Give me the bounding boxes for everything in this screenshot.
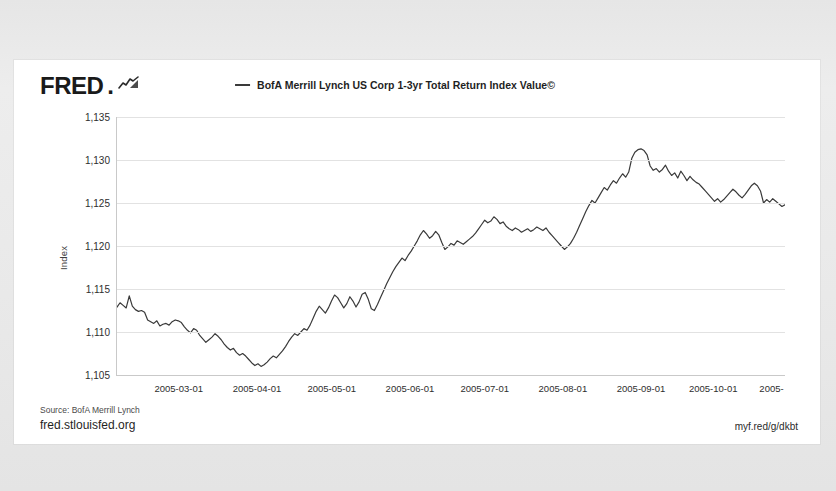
fred-site-url[interactable]: fred.stlouisfed.org [40, 418, 135, 432]
y-axis-tick-label: 1,115 [86, 284, 110, 295]
chart-legend: BofA Merrill Lynch US Corp 1-3yr Total R… [235, 79, 555, 91]
y-axis-tick-label: 1,130 [85, 155, 110, 166]
x-axis-tick-label: 2005-03-01 [154, 383, 203, 394]
fred-wordmark: FRED [40, 76, 103, 96]
fred-chart-card: FRED . BofA Merrill Lynch US Corp 1-3yr … [14, 60, 820, 444]
x-axis-tick-label: 2005-07-01 [460, 383, 509, 394]
series-path [117, 149, 785, 367]
x-axis-tick-label: 2005-04-01 [233, 383, 282, 394]
x-axis-tick-label: 2005-05-01 [307, 383, 356, 394]
chart-body: Index 1,1351,1301,1251,1201,1151,1101,10… [14, 100, 820, 405]
y-axis-tick-label: 1,110 [86, 327, 110, 338]
fred-logo[interactable]: FRED . [40, 76, 140, 96]
x-axis-tick-label: 2005-08-01 [539, 383, 588, 394]
y-axis-tick-label: 1,135 [85, 112, 110, 123]
gridline [117, 160, 785, 161]
chart-header: FRED . BofA Merrill Lynch US Corp 1-3yr … [14, 60, 820, 100]
chart-glyph-icon [118, 76, 140, 94]
fred-logo-dot: . [107, 76, 114, 96]
plot-area[interactable] [116, 117, 785, 376]
x-axis-ticks: 2005-03-012005-04-012005-05-012005-06-01… [116, 383, 784, 399]
gridline [117, 332, 785, 333]
gridline [117, 117, 785, 118]
x-axis-tick-label: 2005-06-01 [386, 383, 435, 394]
gridline [117, 289, 785, 290]
y-axis-ticks: 1,1351,1301,1251,1201,1151,1101,105 [72, 117, 110, 375]
y-axis-tick-label: 1,105 [85, 370, 110, 381]
x-axis-tick-label: 2005-09-01 [617, 383, 666, 394]
chart-footer: Source: BofA Merrill Lynch fred.stlouisf… [14, 405, 820, 444]
y-axis-tick-label: 1,125 [85, 198, 110, 209]
y-axis-tick-label: 1,120 [85, 241, 110, 252]
short-url-label[interactable]: myf.red/g/dkbt [735, 421, 798, 432]
gridline [117, 246, 785, 247]
source-note: Source: BofA Merrill Lynch [40, 405, 140, 415]
x-axis-tick-label: 2005-11-0 [759, 383, 784, 394]
legend-series-label: BofA Merrill Lynch US Corp 1-3yr Total R… [257, 79, 555, 91]
y-axis-title: Index [58, 246, 69, 270]
legend-line-marker [235, 84, 250, 86]
gridline [117, 203, 785, 204]
x-axis-tick-label: 2005-10-01 [689, 383, 738, 394]
